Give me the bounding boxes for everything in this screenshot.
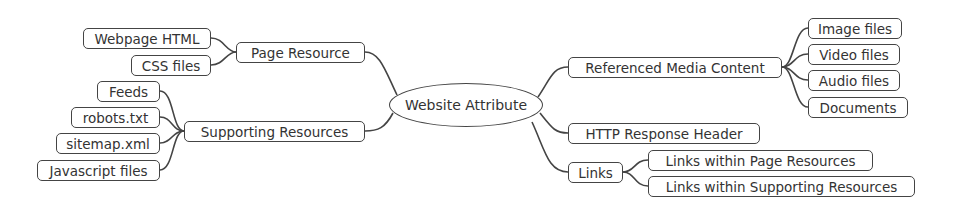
node-supporting-resources: Supporting Resources: [184, 121, 365, 142]
node-label: Webpage HTML: [94, 30, 199, 48]
node-robots-txt: robots.txt: [71, 107, 160, 128]
node-css-files: CSS files: [131, 55, 211, 76]
node-label: Feeds: [109, 83, 148, 101]
node-label: sitemap.xml: [66, 135, 150, 153]
node-links-within-page-resources: Links within Page Resources: [648, 150, 873, 171]
root-node-website-attribute: Website Attribute: [389, 83, 543, 127]
node-http-response-header: HTTP Response Header: [568, 123, 760, 144]
node-feeds: Feeds: [97, 81, 160, 102]
node-referenced-media-content: Referenced Media Content: [568, 57, 782, 78]
node-links-within-supporting-resources: Links within Supporting Resources: [648, 176, 915, 197]
node-sitemap-xml: sitemap.xml: [56, 133, 160, 154]
node-video-files: Video files: [808, 44, 900, 65]
node-label: Links within Page Resources: [665, 152, 855, 170]
node-audio-files: Audio files: [808, 70, 900, 91]
node-label: Video files: [819, 46, 889, 64]
node-label: robots.txt: [83, 109, 149, 127]
node-links: Links: [568, 162, 623, 183]
node-label: Image files: [818, 20, 892, 38]
node-page-resource: Page Resource: [236, 42, 365, 63]
node-image-files: Image files: [808, 18, 902, 39]
node-javascript-files: Javascript files: [37, 160, 160, 181]
node-label: Supporting Resources: [201, 123, 348, 141]
node-label: Links within Supporting Resources: [666, 178, 898, 196]
root-label: Website Attribute: [405, 97, 527, 113]
node-label: Referenced Media Content: [585, 59, 764, 77]
node-documents: Documents: [808, 97, 908, 118]
node-label: Links: [578, 164, 613, 182]
node-label: Page Resource: [251, 44, 350, 62]
node-label: Javascript files: [49, 162, 147, 180]
node-webpage-html: Webpage HTML: [83, 28, 211, 49]
node-label: CSS files: [142, 57, 200, 75]
node-label: Documents: [820, 99, 897, 117]
node-label: Audio files: [819, 72, 889, 90]
node-label: HTTP Response Header: [585, 125, 742, 143]
